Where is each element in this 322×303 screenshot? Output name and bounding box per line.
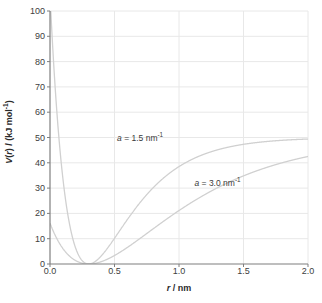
annotation-label: a = 1.5 nm-1 — [117, 133, 163, 143]
x-tick-label: 1.0 — [173, 266, 186, 276]
gridlines — [50, 11, 308, 264]
x-axis-tick-labels: 0.00.51.01.52.0 — [0, 266, 322, 280]
annotation-label: a = 3.0 nm-1 — [194, 178, 240, 188]
x-tick-label: 0.5 — [108, 266, 121, 276]
plot-area — [0, 0, 322, 303]
x-tick-label: 2.0 — [302, 266, 315, 276]
x-tick-label: 0.0 — [44, 266, 57, 276]
x-tick-label: 1.5 — [237, 266, 250, 276]
axis-lines — [47, 11, 308, 267]
x-axis-title: r / nm — [50, 283, 308, 293]
chart-figure: V(r) / (kJ mol-1) 0102030405060708090100… — [0, 0, 322, 303]
